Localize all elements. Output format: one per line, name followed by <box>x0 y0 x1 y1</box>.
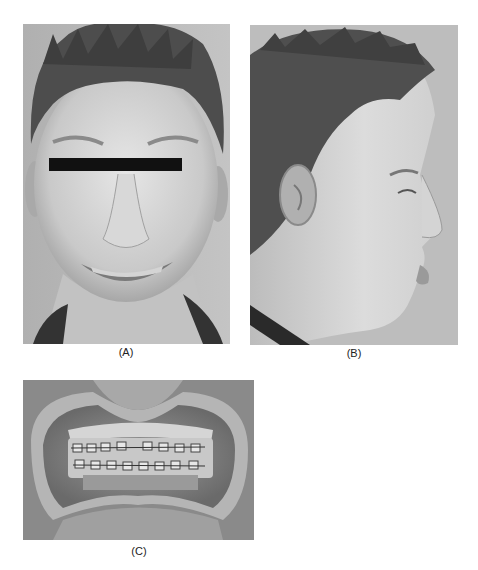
profile-face-illustration <box>250 25 458 345</box>
photo-intraoral-braces <box>23 380 254 540</box>
photo-frontal-face <box>23 24 230 344</box>
panel-a-label: (A) <box>106 346 146 358</box>
frontal-face-illustration <box>23 24 230 344</box>
photo-profile-face <box>250 25 458 345</box>
panel-c-label: (C) <box>119 545 159 557</box>
intraoral-illustration <box>23 380 254 540</box>
panel-b-label: (B) <box>334 347 374 359</box>
censor-bar <box>49 158 182 171</box>
